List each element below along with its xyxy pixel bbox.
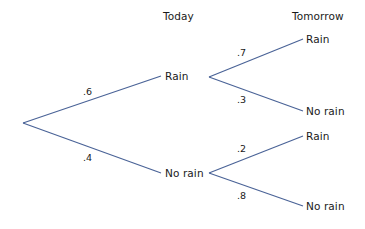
- probability-rain-then-rain: .7: [237, 47, 246, 58]
- edge-today-no-rain-to-tomorrow-no-rain: [209, 173, 303, 206]
- probability-today-no-rain: .4: [83, 152, 92, 163]
- probability-no-rain-then-no-rain: .8: [237, 190, 246, 201]
- node-today-rain: Rain: [165, 70, 188, 82]
- node-today-no-rain: No rain: [165, 167, 204, 179]
- edge-today-no-rain-to-tomorrow-rain: [209, 136, 303, 173]
- node-tomorrow-rain-after-rain: Rain: [306, 33, 329, 45]
- column-header-today: Today: [163, 10, 194, 22]
- edge-today-rain-to-tomorrow-no-rain: [209, 77, 303, 111]
- probability-today-rain: .6: [83, 86, 92, 97]
- node-tomorrow-rain-after-no-rain: Rain: [306, 130, 329, 142]
- probability-rain-then-no-rain: .3: [237, 94, 246, 105]
- edge-root-to-today-rain: [23, 76, 161, 123]
- probability-tree-diagram: Today Tomorrow Rain No rain Rain No rain…: [0, 0, 365, 229]
- column-header-tomorrow: Tomorrow: [292, 10, 344, 22]
- node-tomorrow-no-rain-after-no-rain: No rain: [306, 200, 345, 212]
- edge-today-rain-to-tomorrow-rain: [209, 39, 303, 77]
- edge-root-to-today-no-rain: [23, 123, 161, 173]
- probability-no-rain-then-rain: .2: [237, 143, 246, 154]
- node-tomorrow-no-rain-after-rain: No rain: [306, 105, 345, 117]
